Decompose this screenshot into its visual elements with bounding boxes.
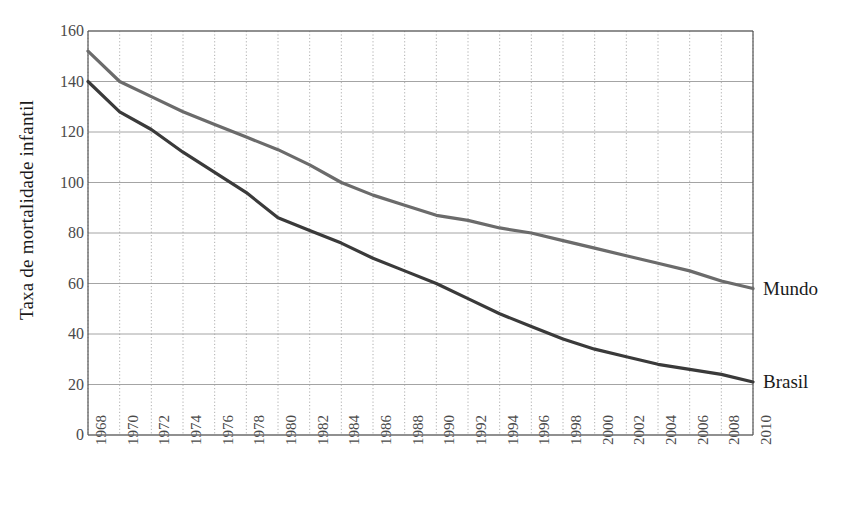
series-label-brasil: Brasil (763, 371, 808, 393)
plot-area (0, 0, 842, 513)
series-line-mundo (88, 51, 753, 288)
chart-page: Taxa de mortalidade infantil 02040608010… (0, 0, 842, 513)
data-series-lines (88, 51, 753, 382)
series-line-brasil (88, 82, 753, 382)
horizontal-gridlines (88, 31, 753, 435)
series-label-mundo: Mundo (763, 278, 818, 300)
infant-mortality-line-chart: Taxa de mortalidade infantil 02040608010… (0, 0, 842, 513)
